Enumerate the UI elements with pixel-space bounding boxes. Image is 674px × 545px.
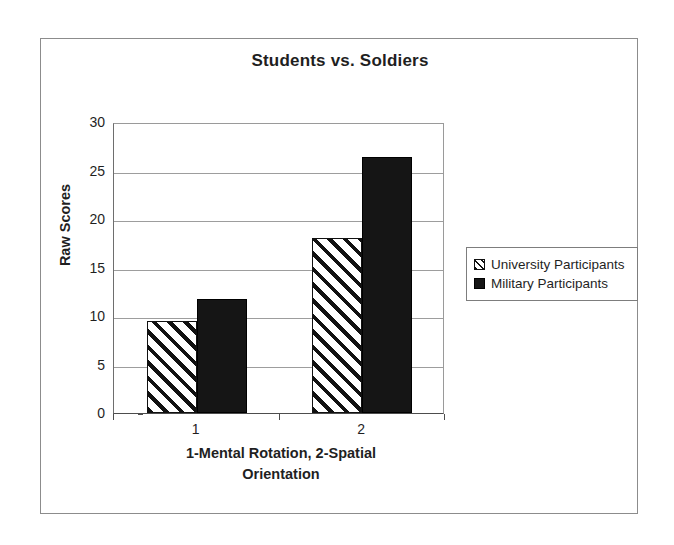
bar-military-participants-cat-2 — [362, 157, 412, 413]
y-axis-tick-labels: 051015202530 — [71, 123, 105, 414]
y-tick-label: 15 — [71, 260, 105, 276]
x-axis-title-line2: Orientation — [242, 466, 319, 482]
solid-swatch-icon — [474, 278, 485, 289]
plot-area — [113, 123, 444, 414]
y-tick-label: 20 — [71, 211, 105, 227]
legend-item: University Participants — [474, 255, 630, 273]
y-tick-label: 0 — [71, 405, 105, 421]
legend-item: Military Participants — [474, 274, 630, 292]
legend: University ParticipantsMilitary Particip… — [466, 247, 638, 301]
y-tick-label: 25 — [71, 163, 105, 179]
x-tick-mark — [444, 414, 445, 420]
x-axis-title-line1: 1-Mental Rotation, 2-Spatial — [186, 445, 376, 461]
x-axis-title: 1-Mental Rotation, 2-Spatial Orientation — [81, 443, 481, 485]
x-category-label: 2 — [331, 421, 391, 437]
bar-university-participants-cat-1 — [147, 321, 197, 413]
x-category-label: 1 — [166, 421, 226, 437]
x-tick-mark — [113, 414, 114, 420]
legend-item-label: University Participants — [491, 257, 625, 272]
y-tick-label: 30 — [71, 114, 105, 130]
x-axis: 12 — [113, 414, 444, 444]
y-tick-label: 10 — [71, 308, 105, 324]
hatched-swatch-icon — [474, 259, 485, 270]
bar-military-participants-cat-1 — [197, 299, 247, 413]
chart-title: Students vs. Soldiers — [41, 51, 639, 71]
x-tick-mark — [279, 414, 280, 420]
bar-university-participants-cat-2 — [312, 238, 362, 413]
legend-item-label: Military Participants — [491, 276, 608, 291]
chart-frame: Students vs. Soldiers Raw Scores 0510152… — [40, 38, 638, 514]
y-tick-label: 5 — [71, 357, 105, 373]
